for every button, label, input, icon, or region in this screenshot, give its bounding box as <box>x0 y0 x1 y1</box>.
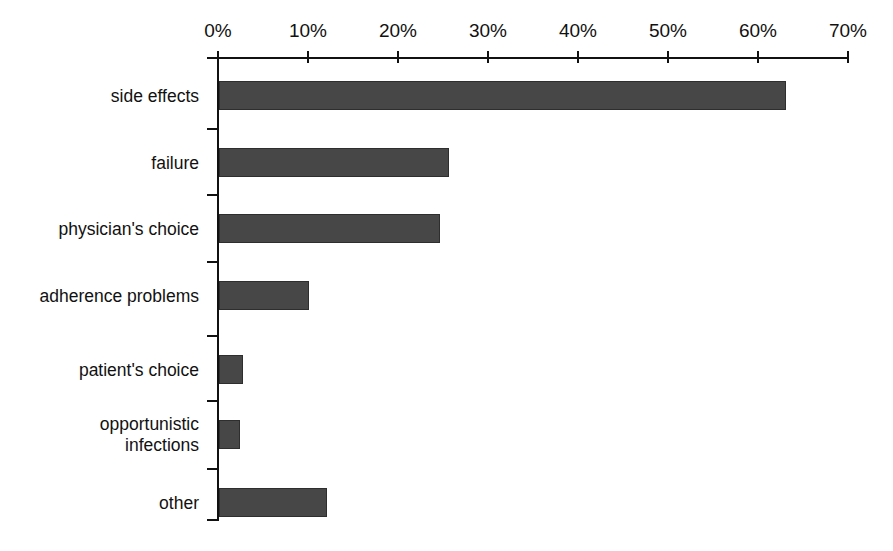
x-axis-tick <box>667 51 669 63</box>
y-axis-tick <box>207 261 217 263</box>
category-label: side effects <box>111 85 199 106</box>
bar <box>219 281 309 310</box>
x-axis-tick <box>487 51 489 63</box>
x-axis-tick-label: 0% <box>204 20 231 42</box>
x-axis-tick <box>847 51 849 63</box>
x-axis-tick <box>397 51 399 63</box>
category-label: other <box>159 492 199 513</box>
x-axis-tick <box>307 51 309 63</box>
bar <box>219 148 449 177</box>
x-axis-tick-label: 30% <box>469 20 507 42</box>
x-axis-tick-label: 70% <box>829 20 867 42</box>
category-label: patient's choice <box>79 359 199 380</box>
bar <box>219 81 786 110</box>
y-axis-tick <box>207 128 217 130</box>
bar-chart: 0%10%20%30%40%50%60%70% side effectsfail… <box>0 0 893 551</box>
x-axis-tick <box>757 51 759 63</box>
y-axis-tick <box>207 335 217 337</box>
x-axis-tick <box>577 51 579 63</box>
x-axis-tick-label: 60% <box>739 20 777 42</box>
x-axis-tick-label: 50% <box>649 20 687 42</box>
y-axis-end-cap <box>207 519 217 521</box>
bar <box>219 488 327 517</box>
y-axis-tick <box>207 194 217 196</box>
bar <box>219 355 243 384</box>
x-axis-tick-label: 40% <box>559 20 597 42</box>
y-axis-end-cap <box>207 57 217 59</box>
category-label: physician's choice <box>59 218 200 239</box>
bar <box>219 420 240 449</box>
category-label: opportunistic infections <box>100 414 199 456</box>
x-axis-line <box>218 57 848 59</box>
category-label: failure <box>151 152 199 173</box>
y-axis-tick <box>207 468 217 470</box>
x-axis-tick-label: 20% <box>379 20 417 42</box>
category-label: adherence problems <box>39 285 199 306</box>
y-axis-tick <box>207 400 217 402</box>
x-axis-tick-label: 10% <box>289 20 327 42</box>
bar <box>219 214 440 243</box>
